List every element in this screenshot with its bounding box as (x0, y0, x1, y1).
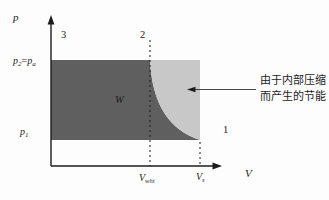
y-axis-arrow-icon (48, 15, 55, 25)
pv-diagram: p V 3 2 1 W p2=pa p1 Vwhi Vs 由于内部压缩 而产生的… (0, 0, 329, 200)
x-axis-arrow-icon (213, 163, 223, 170)
y-axis-label: p (12, 11, 19, 23)
point-label-1: 1 (223, 124, 228, 135)
point-label-2: 2 (140, 29, 145, 40)
x-axis-label: V (245, 167, 253, 179)
p2-pressure-label: p2=pa (12, 55, 36, 68)
p1-pressure-label: p1 (19, 126, 29, 139)
v-suction-volume-label: Vs (196, 171, 205, 183)
work-label: W (115, 94, 125, 105)
v-internal-volume-label: Vwhi (139, 172, 155, 184)
annotation-line-2: 而产生的节能 (260, 89, 326, 102)
annotation-line-1: 由于内部压缩 (260, 73, 326, 86)
point-label-3: 3 (61, 29, 66, 40)
pv-diagram-canvas: p V 3 2 1 W p2=pa p1 Vwhi Vs 由于内部压缩 而产生的… (0, 0, 329, 200)
